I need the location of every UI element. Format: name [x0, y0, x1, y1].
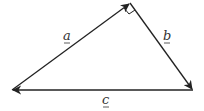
label-b: b: [163, 28, 171, 43]
vector-b: [130, 3, 192, 89]
label-c: c: [102, 92, 110, 107]
vector-triangle-diagram: a b c: [0, 0, 204, 111]
label-a: a: [63, 28, 71, 43]
right-angle-marker: [124, 8, 135, 14]
vector-a: [12, 4, 129, 90]
